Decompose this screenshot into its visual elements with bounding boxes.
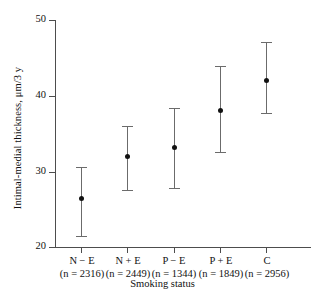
y-tick-label-20: 20 <box>18 241 46 252</box>
error-bar-cap-bottom-3 <box>169 188 180 189</box>
y-tick-label-40-wrap: 40 <box>14 90 46 102</box>
x-group-label-5: C (n = 2956) <box>225 255 309 280</box>
data-marker-5 <box>264 78 269 83</box>
x-group-name-5: C <box>225 255 309 268</box>
error-bar-cap-bottom-5 <box>261 113 272 114</box>
x-tick-3 <box>174 248 175 253</box>
y-tick-label-40: 40 <box>18 90 46 101</box>
error-bar-cap-top-5 <box>261 42 272 43</box>
y-axis-line <box>55 20 56 248</box>
error-bar-cap-bottom-4 <box>215 152 226 153</box>
y-tick-20 <box>49 247 55 248</box>
y-tick-label-50: 50 <box>18 14 46 25</box>
error-bar-cap-top-1 <box>76 167 87 168</box>
x-tick-1 <box>81 248 82 253</box>
y-tick-label-30: 30 <box>18 166 46 177</box>
y-tick-30 <box>49 172 55 173</box>
data-marker-4 <box>218 108 223 113</box>
data-marker-3 <box>172 145 177 150</box>
error-bar-cap-top-4 <box>215 66 226 67</box>
x-axis-label: Smoking status <box>0 278 325 289</box>
y-tick-50 <box>49 20 55 21</box>
y-tick-label-30-wrap: 30 <box>14 166 46 178</box>
x-tick-4 <box>220 248 221 253</box>
data-marker-1 <box>79 196 84 201</box>
error-bar-cap-bottom-2 <box>122 190 133 191</box>
error-bar-cap-bottom-1 <box>76 236 87 237</box>
y-tick-label-20-wrap: 20 <box>14 241 46 253</box>
x-tick-2 <box>127 248 128 253</box>
x-tick-5 <box>266 248 267 253</box>
error-bar-line-1 <box>81 167 82 236</box>
y-axis-label: Intimal-medial thickness, μm/3 y <box>12 18 28 258</box>
x-axis-line <box>55 247 311 248</box>
error-bar-cap-top-2 <box>122 126 133 127</box>
y-tick-label-50-wrap: 50 <box>14 14 46 26</box>
error-bar-cap-top-3 <box>169 108 180 109</box>
data-marker-2 <box>125 154 130 159</box>
chart-figure: Intimal-medial thickness, μm/3 y 50 40 3… <box>0 0 325 301</box>
y-tick-40 <box>49 96 55 97</box>
